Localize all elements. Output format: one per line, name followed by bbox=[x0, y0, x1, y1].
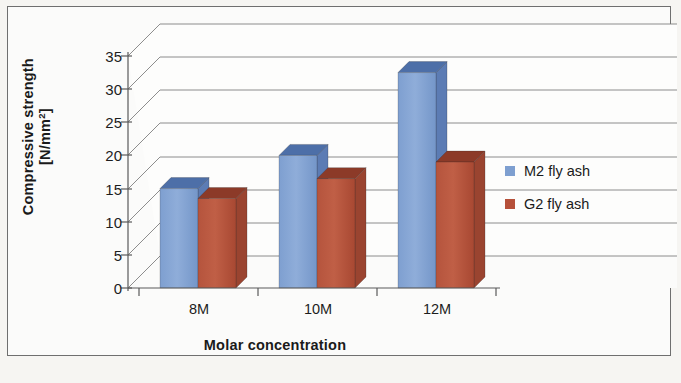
y-tick-5: 5 bbox=[82, 247, 122, 264]
y-tick-20: 20 bbox=[82, 147, 122, 164]
x-axis-title: Molar concentration bbox=[120, 337, 430, 353]
legend-swatch-g2 bbox=[505, 199, 515, 209]
legend-label-m2: M2 fly ash bbox=[524, 163, 590, 179]
y-tick-0: 0 bbox=[82, 280, 122, 297]
bar-12m-g2 bbox=[436, 151, 485, 288]
y-tick-25: 25 bbox=[82, 114, 122, 131]
chart-legend: M2 fly ash G2 fly ash bbox=[505, 163, 590, 229]
x-tick-10m: 10M bbox=[283, 301, 353, 317]
y-axis-tick-labels: 0 5 10 15 20 25 30 35 bbox=[70, 0, 122, 383]
legend-item-m2: M2 fly ash bbox=[505, 163, 590, 179]
y-tick-30: 30 bbox=[82, 81, 122, 98]
legend-swatch-m2 bbox=[505, 166, 515, 176]
legend-item-g2: G2 fly ash bbox=[505, 196, 590, 212]
y-tick-15: 15 bbox=[82, 181, 122, 198]
y-axis-title-line1: Compressive strength bbox=[20, 58, 36, 215]
x-axis bbox=[128, 288, 500, 296]
x-tick-12m: 12M bbox=[402, 301, 472, 317]
y-tick-10: 10 bbox=[82, 214, 122, 231]
y-axis-title-exponent: 2 bbox=[36, 113, 47, 118]
x-tick-8m: 8M bbox=[164, 301, 234, 317]
legend-label-g2: G2 fly ash bbox=[524, 196, 589, 212]
scanned-figure-page: 0 5 10 15 20 25 30 35 8M 10M 12M Compres… bbox=[0, 0, 681, 383]
y-axis bbox=[121, 52, 132, 291]
y-axis-title-line2: [N/mm2] bbox=[37, 108, 53, 165]
bar-10m-g2 bbox=[317, 168, 366, 288]
y-axis-title: Compressive strength [N/mm2] bbox=[20, 42, 53, 232]
bar-8m-g2 bbox=[198, 188, 247, 288]
y-tick-35: 35 bbox=[82, 48, 122, 65]
